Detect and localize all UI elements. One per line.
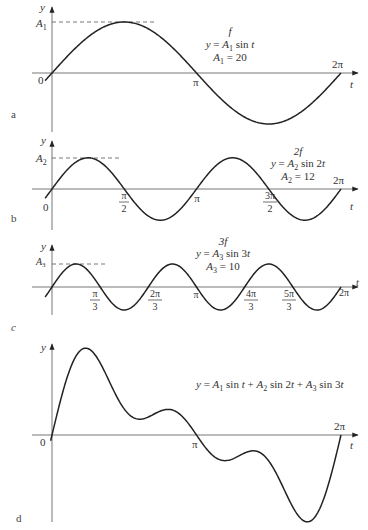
tick-pi-over-3: π 3 bbox=[90, 288, 100, 312]
tick-pi: π bbox=[193, 76, 199, 88]
y-axis-label: y bbox=[39, 1, 45, 13]
t-axis-label: t bbox=[350, 78, 354, 90]
svg-text:2: 2 bbox=[122, 203, 127, 214]
tick-pi: π bbox=[194, 192, 200, 204]
tick-2pi: 2π bbox=[332, 58, 344, 70]
t-axis-label: t bbox=[350, 200, 354, 212]
panel-letter: c bbox=[11, 321, 16, 333]
amplitude-axis-label: A3 bbox=[35, 256, 46, 269]
panel-c: y A3 t π 3 2π 3 π 4π 3 5π 3 2π 3f y = A3… bbox=[11, 235, 359, 333]
svg-text:3π: 3π bbox=[265, 190, 275, 201]
t-axis-label: t bbox=[356, 277, 359, 288]
svg-text:2: 2 bbox=[268, 203, 273, 214]
amplitude-axis-label: A1 bbox=[35, 17, 47, 32]
tick-3pi-over-2: 3π 2 bbox=[263, 190, 277, 214]
harmonic-label: 3f bbox=[218, 235, 230, 247]
panel-letter: a bbox=[11, 108, 16, 120]
panel-letter: b bbox=[11, 212, 17, 224]
panel-a: y A1 0 t π 2π f y = A1 sin t A1 = 20 a bbox=[11, 1, 358, 132]
svg-text:3: 3 bbox=[249, 301, 254, 312]
origin-label: 0 bbox=[38, 74, 44, 86]
origin-label: 0 bbox=[40, 436, 46, 448]
svg-text:π: π bbox=[121, 190, 126, 201]
equation: y = A1 sin t + A2 sin 2t + A3 sin 3t bbox=[195, 378, 344, 393]
svg-text:5π: 5π bbox=[284, 288, 294, 299]
tick-2pi: 2π bbox=[333, 174, 345, 186]
svg-text:4π: 4π bbox=[246, 288, 256, 299]
harmonic-label: 2f bbox=[294, 145, 305, 157]
tick-pi: π bbox=[192, 438, 198, 450]
harmonic-label: f bbox=[228, 25, 233, 37]
tick-2pi: 2π bbox=[334, 420, 346, 432]
tick-5pi-over-3: 5π 3 bbox=[282, 288, 296, 312]
origin-label: 0 bbox=[43, 201, 49, 213]
y-axis-label: y bbox=[40, 341, 46, 353]
svg-text:3: 3 bbox=[287, 301, 292, 312]
t-axis-label: t bbox=[350, 439, 354, 451]
panel-letter: d bbox=[16, 512, 22, 524]
svg-text:π: π bbox=[92, 288, 97, 299]
svg-text:2π: 2π bbox=[150, 288, 160, 299]
panel-d: y 0 t π 2π y = A1 sin t + A2 sin 2t + A3… bbox=[16, 341, 358, 524]
y-axis-label: y bbox=[40, 240, 46, 252]
y-axis-label: y bbox=[40, 134, 46, 146]
tick-pi: π bbox=[193, 289, 198, 300]
amplitude-value: A1 = 20 bbox=[212, 51, 247, 66]
amplitude-axis-label: A2 bbox=[35, 152, 47, 167]
tick-4pi-over-3: 4π 3 bbox=[244, 288, 258, 312]
amplitude-value: A2 = 12 bbox=[280, 170, 314, 185]
svg-text:3: 3 bbox=[153, 301, 158, 312]
tick-2pi-over-3: 2π 3 bbox=[148, 288, 162, 312]
svg-text:3: 3 bbox=[93, 301, 98, 312]
panel-b: y A2 0 t π 2 π 3π 2 2π 2f y = A2 sin 2t … bbox=[11, 134, 358, 230]
amplitude-value: A3 = 10 bbox=[205, 260, 240, 275]
tick-2pi: 2π bbox=[339, 287, 349, 298]
fourier-harmonics-figure: y A1 0 t π 2π f y = A1 sin t A1 = 20 a y… bbox=[0, 0, 368, 530]
